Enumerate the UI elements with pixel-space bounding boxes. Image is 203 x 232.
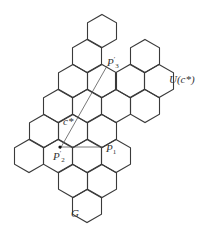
label-p2-prime: P′2 — [53, 150, 65, 164]
label-p3-prime: P′3 — [107, 56, 119, 70]
line-p2-to-p3 — [60, 66, 107, 149]
label-g: G — [71, 208, 79, 219]
hexagon-cell — [102, 90, 131, 123]
hexagon-grid — [15, 15, 174, 223]
label-u-c-star: U(c*) — [169, 74, 195, 85]
label-c-star: c* — [63, 116, 73, 127]
hexagon-tiling-diagram — [0, 0, 203, 232]
label-p1: P1 — [106, 143, 116, 156]
